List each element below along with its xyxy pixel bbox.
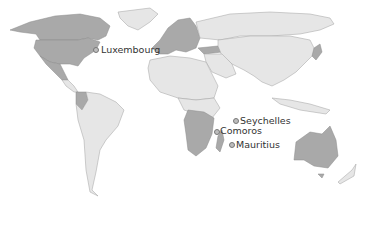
region-australia — [294, 126, 338, 168]
region-southeast-asia — [272, 98, 330, 114]
region-tasmania — [318, 174, 324, 178]
region-southern-africa — [184, 110, 214, 156]
region-usa — [34, 38, 100, 66]
luxembourg-label: Luxembourg — [101, 45, 160, 55]
comoros-label: Comoros — [220, 126, 262, 136]
luxembourg-marker — [93, 47, 99, 53]
region-canada — [10, 14, 110, 40]
region-south-america — [76, 92, 124, 196]
region-central-america — [62, 80, 78, 92]
region-asia — [218, 36, 316, 86]
mauritius-marker — [229, 142, 235, 148]
world-map — [0, 0, 376, 225]
mauritius-label: Mauritius — [236, 140, 280, 150]
region-japan — [312, 44, 322, 60]
region-greenland — [118, 8, 158, 30]
seychelles-marker — [233, 118, 239, 124]
region-new-zealand — [338, 164, 356, 184]
